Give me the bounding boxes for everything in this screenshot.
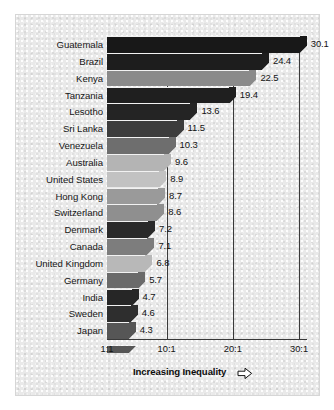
- bar-end-cap: [159, 171, 166, 188]
- bar-segment: [107, 322, 129, 339]
- bar-row: 8.9: [107, 171, 166, 188]
- bar-value-label: 6.8: [156, 257, 169, 268]
- bar-end-cap: [262, 53, 269, 70]
- bar-segment: [107, 103, 190, 120]
- bar-row: 5.7: [107, 272, 145, 289]
- category-label: United Kingdom: [0, 258, 103, 269]
- bar-value-label: 8.6: [168, 206, 181, 217]
- gridline: [299, 36, 300, 339]
- bar-end-cap: [132, 289, 139, 306]
- category-label: Canada: [0, 241, 103, 252]
- bar-segment: [107, 36, 300, 53]
- category-label: Sri Lanka: [0, 123, 103, 134]
- category-label: Germany: [0, 275, 103, 286]
- bar-row: 13.6: [107, 103, 197, 120]
- bar-row: 24.4: [107, 53, 269, 70]
- inequality-bar-chart: GuatemalaBrazilKenyaTanzaniaLesothoSri L…: [0, 0, 334, 410]
- x-tick-label: 10:1: [158, 344, 176, 354]
- bar-segment: [107, 221, 148, 238]
- bar-value-label: 4.7: [143, 291, 156, 302]
- x-axis-line: [107, 339, 307, 340]
- bar-row: 9.6: [107, 154, 171, 171]
- bar-segment: [107, 255, 145, 272]
- bar-value-label: 8.7: [169, 190, 182, 201]
- x-axis-tick-labels: 1:110:120:130:1: [107, 344, 317, 358]
- bar-segment: [107, 289, 132, 306]
- x-tick-label: 1:1: [101, 344, 114, 354]
- category-label: Australia: [0, 157, 103, 168]
- bar-end-cap: [145, 255, 152, 272]
- category-label: Kenya: [0, 73, 103, 84]
- category-label: Lesotho: [0, 106, 103, 117]
- category-label: Hong Kong: [0, 191, 103, 202]
- bar-end-cap: [249, 70, 256, 87]
- bar-end-cap: [158, 188, 165, 205]
- x-tick-label: 30:1: [290, 344, 308, 354]
- bar-row: 4.3: [107, 322, 136, 339]
- bar-row: 4.7: [107, 289, 139, 306]
- bar-row: 11.5: [107, 120, 184, 137]
- bar-end-cap: [157, 204, 164, 221]
- bar-segment: [107, 137, 169, 154]
- category-label: United States: [0, 174, 103, 185]
- bar-end-cap: [229, 87, 236, 104]
- plot-area: 30.124.422.519.413.611.510.39.68.98.78.6…: [107, 36, 307, 339]
- category-label: Tanzania: [0, 90, 103, 101]
- bar-segment: [107, 154, 164, 171]
- category-label: Switzerland: [0, 207, 103, 218]
- bar-row: 19.4: [107, 87, 236, 104]
- bar-segment: [107, 171, 159, 188]
- bar-row: 7.2: [107, 221, 155, 238]
- bar-end-cap: [177, 120, 184, 137]
- category-label: Denmark: [0, 224, 103, 235]
- category-label: Sweden: [0, 308, 103, 319]
- bar-value-label: 13.6: [201, 105, 219, 116]
- bar-end-cap: [129, 322, 136, 339]
- bar-row: 22.5: [107, 70, 256, 87]
- category-label: Guatemala: [0, 39, 103, 50]
- bar-end-cap: [164, 154, 171, 171]
- bar-row: 4.6: [107, 305, 138, 322]
- bar-value-label: 19.4: [240, 89, 258, 100]
- bar-value-label: 22.5: [260, 72, 278, 83]
- bar-segment: [107, 53, 262, 70]
- bar-value-label: 4.3: [140, 324, 153, 335]
- bar-segment: [107, 87, 229, 104]
- right-arrow-outline-icon: [237, 366, 253, 379]
- bar-end-cap: [190, 103, 197, 120]
- bar-segment: [107, 305, 131, 322]
- bar-value-label: 7.2: [159, 223, 172, 234]
- bar-segment: [107, 120, 177, 137]
- bar-row: 10.3: [107, 137, 176, 154]
- bar-value-label: 4.6: [142, 307, 155, 318]
- bar-value-label: 5.7: [149, 274, 162, 285]
- bar-row: 7.1: [107, 238, 154, 255]
- bar-row: 6.8: [107, 255, 152, 272]
- bar-end-cap: [300, 36, 307, 53]
- bar-value-label: 9.6: [175, 156, 188, 167]
- bar-value-label: 24.4: [273, 55, 291, 66]
- bar-value-label: 8.9: [170, 173, 183, 184]
- category-label: India: [0, 292, 103, 303]
- bar-end-cap: [131, 305, 138, 322]
- bar-value-label: 10.3: [180, 139, 198, 150]
- bar-row: 8.7: [107, 188, 165, 205]
- bar-end-cap: [148, 221, 155, 238]
- bar-segment: [107, 188, 158, 205]
- category-axis-labels: GuatemalaBrazilKenyaTanzaniaLesothoSri L…: [0, 36, 103, 339]
- bar-segment: [107, 204, 157, 221]
- category-label: Brazil: [0, 56, 103, 67]
- bar-row: 30.1: [107, 36, 307, 53]
- bar-end-cap: [147, 238, 154, 255]
- x-tick-label: 20:1: [224, 344, 242, 354]
- bar-segment: [107, 272, 138, 289]
- bar-end-cap: [138, 272, 145, 289]
- bar-value-label: 11.5: [188, 122, 205, 133]
- bar-value-label: 7.1: [158, 240, 171, 251]
- bar-value-label: 30.1: [311, 38, 329, 49]
- bar-row: 8.6: [107, 204, 164, 221]
- bar-segment: [107, 70, 249, 87]
- bar-end-cap: [169, 137, 176, 154]
- category-label: Venezuela: [0, 140, 103, 151]
- x-axis-title: Increasing Inequality: [133, 366, 226, 377]
